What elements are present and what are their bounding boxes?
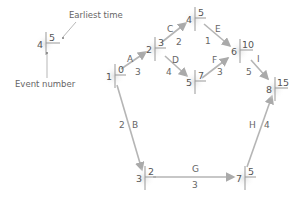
arrow-C bbox=[162, 23, 186, 42]
svg-text:8: 8 bbox=[266, 84, 272, 95]
svg-text:I: I bbox=[257, 54, 260, 64]
arrow-A bbox=[121, 52, 146, 69]
svg-text:C: C bbox=[167, 24, 173, 34]
event-node-5: 5 7 bbox=[183, 70, 206, 94]
svg-text:2: 2 bbox=[176, 37, 182, 47]
svg-text:3: 3 bbox=[217, 67, 223, 77]
svg-text:3: 3 bbox=[136, 173, 142, 184]
svg-text:1: 1 bbox=[106, 71, 112, 82]
svg-text:5: 5 bbox=[246, 67, 252, 77]
svg-text:0: 0 bbox=[118, 64, 124, 75]
earliest-time-label: Earliest time bbox=[69, 10, 123, 20]
legend-event-number: 4 bbox=[37, 39, 43, 50]
arrow-H bbox=[247, 96, 272, 167]
svg-text:6: 6 bbox=[231, 46, 237, 57]
svg-text:7: 7 bbox=[236, 173, 242, 184]
svg-text:G: G bbox=[192, 164, 199, 174]
svg-text:B: B bbox=[132, 120, 138, 130]
svg-text:E: E bbox=[215, 24, 221, 34]
svg-text:4: 4 bbox=[166, 67, 172, 77]
event-node-4: 4 5 bbox=[183, 7, 206, 31]
svg-text:F: F bbox=[212, 55, 217, 65]
svg-text:7: 7 bbox=[198, 70, 204, 81]
svg-text:3: 3 bbox=[192, 180, 198, 190]
svg-text:A: A bbox=[127, 54, 134, 64]
event-node-3: 3 2 bbox=[133, 166, 156, 190]
svg-text:4: 4 bbox=[264, 120, 270, 130]
event-node-7: 7 5 bbox=[233, 166, 256, 190]
svg-text:4: 4 bbox=[186, 14, 192, 25]
svg-text:5: 5 bbox=[248, 166, 254, 177]
activity-network-diagram: 4 5 Earliest time Event number A 3 2 B C… bbox=[0, 0, 299, 199]
event-number-label: Event number bbox=[15, 79, 76, 89]
svg-text:H: H bbox=[249, 120, 256, 130]
svg-text:3: 3 bbox=[135, 67, 141, 77]
event-node-1: 1 0 bbox=[103, 64, 126, 88]
svg-text:2: 2 bbox=[146, 44, 152, 55]
svg-text:3: 3 bbox=[158, 37, 164, 48]
legend-earliest-time: 5 bbox=[49, 32, 55, 43]
svg-text:15: 15 bbox=[277, 77, 289, 88]
svg-text:D: D bbox=[172, 55, 179, 65]
svg-text:2: 2 bbox=[119, 120, 125, 130]
svg-text:1: 1 bbox=[205, 36, 211, 46]
svg-text:5: 5 bbox=[186, 77, 192, 88]
svg-text:2: 2 bbox=[148, 166, 154, 177]
event-node-6: 6 10 bbox=[228, 39, 254, 63]
event-node-2: 2 3 bbox=[143, 37, 166, 61]
event-node-8: 8 15 bbox=[263, 77, 289, 101]
svg-text:5: 5 bbox=[198, 7, 204, 18]
svg-text:10: 10 bbox=[242, 39, 254, 50]
